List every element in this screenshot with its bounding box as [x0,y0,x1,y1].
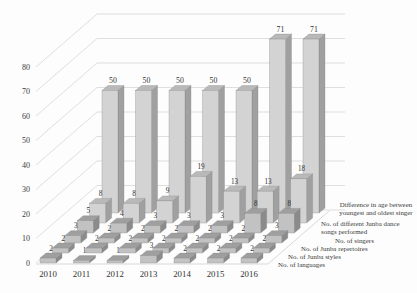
y-tick-label: 40 [22,161,30,170]
x-category-label: 2012 [106,269,124,279]
legend-label: No. of Junba repertoires [301,245,391,253]
y-tick-label: 20 [22,210,30,219]
bar-value-label: 3 [187,212,191,220]
bar [174,258,190,263]
bar-value-label: 13 [231,178,239,186]
legend-item-3: No. of Junba repertoires [301,245,391,253]
bar [144,226,160,233]
legend-item-5: No. of languages [278,261,348,269]
bar-value-label: 1 [116,247,120,255]
x-category-label: 2014 [173,269,191,279]
bar-value-label: 8 [132,190,136,198]
bar-value-label: 50 [143,76,151,85]
bar-value-label: 2 [49,245,53,253]
bar-value-label: 3 [275,222,279,230]
bar [111,223,127,233]
bar-side-face [118,86,124,214]
bar-value-label: 9 [166,187,170,195]
y-tick-label: 0 [26,259,30,268]
bar [98,238,114,243]
bar-value-label: 3 [220,212,224,220]
bar [132,238,148,243]
bar-value-label: 2 [229,235,233,243]
y-tick-label: 30 [22,185,30,194]
legend-label: Difference in age between [336,201,416,209]
y-tick-label: 50 [22,136,30,145]
bar-value-label: 2 [141,225,145,233]
bar-value-label: 8 [254,200,258,208]
bar-value-label: 2 [162,235,166,243]
legend-label: No. of Junba styles [288,253,368,261]
bar-value-label: 1 [83,247,87,255]
bar [107,261,123,263]
x-category-label: 2011 [73,269,90,279]
bar-side-face [206,171,212,223]
bar [220,248,236,253]
bar [65,236,81,243]
bar-value-label: 19 [198,163,206,171]
bar-value-label: 2 [196,235,200,243]
x-category-label: 2013 [140,269,158,279]
bar [186,248,202,253]
legend-label: No. of languages [278,261,348,269]
bar [278,213,294,233]
legend-label: No. of singers [335,237,395,245]
bar-value-label: 2 [250,245,254,253]
bar-value-label: 50 [109,76,117,85]
y-tick-label: 10 [22,234,30,243]
legend-label: No. of different Junba dance [321,220,413,228]
x-category-label: 2015 [207,269,225,279]
bar [224,191,240,223]
bar [232,238,248,243]
bar-value-label: 2 [108,225,112,233]
bar [102,91,118,214]
bar-value-label: 13 [265,178,273,186]
chart-figure: 0102030405060708050505050507171889191313… [0,0,417,293]
x-category-label: 2016 [240,269,258,279]
bar [253,248,269,253]
gridline [36,14,345,67]
bar [157,201,173,223]
x-category-label: 2010 [39,269,57,279]
bar [136,91,152,214]
bar-value-label: 2 [129,235,133,243]
gridline [36,39,345,92]
bar [266,236,282,243]
bar-value-label: 71 [310,25,318,34]
bar [165,238,181,243]
bar [169,91,185,214]
legend-label: songs performed [321,228,413,236]
bar [190,176,206,223]
bar-value-label: 50 [210,76,218,85]
bar-value-label: 3 [74,222,78,230]
bar-value-label: 18 [298,165,306,173]
legend-label: youngest and oldest singer [336,209,416,217]
bar-value-label: 2 [263,235,267,243]
legend-item-4: No. of Junba styles [288,253,368,261]
bar [211,226,227,233]
bar-value-label: 8 [99,190,103,198]
bar [178,226,194,233]
bar-value-label: 4 [120,210,124,218]
bar-value-label: 2 [95,235,99,243]
bar-value-label: 2 [242,225,246,233]
legend-item-1: No. of different Junba dancesongs perfor… [321,220,413,235]
bar [86,248,102,253]
bar-value-label: 2 [217,245,221,253]
bar-value-label: 2 [183,245,187,253]
bar [199,238,215,243]
y-tick-label: 60 [22,112,30,121]
legend-item-0: Difference in age betweenyoungest and ol… [336,201,416,216]
bar-value-label: 3 [150,242,154,250]
bar-value-label: 2 [208,225,212,233]
legend-item-2: No. of singers [335,237,395,245]
bar [40,258,56,263]
bar [74,261,90,263]
bar-side-face [307,174,313,223]
bar-side-face [319,34,325,213]
bar-value-label: 2 [62,235,66,243]
bar-value-label: 50 [176,76,184,85]
bar-value-label: 2 [175,225,179,233]
bar [119,248,135,253]
y-tick-label: 70 [22,87,30,96]
